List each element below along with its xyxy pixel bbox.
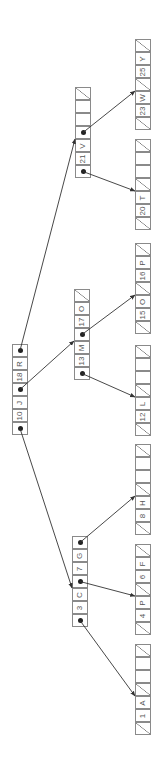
key-cell: R bbox=[12, 357, 28, 370]
null-slash-icon bbox=[136, 140, 150, 151]
key-label: O bbox=[78, 305, 86, 311]
tree-node-n_mid: 13M17O bbox=[74, 289, 90, 380]
b-tree-diagram: 10J18R3C7G13M17O21V1A4P6F8H12L15O16P20T2… bbox=[0, 0, 164, 762]
empty-cell bbox=[75, 113, 91, 126]
pointer-dot-icon bbox=[18, 348, 23, 353]
key-cell: 21 bbox=[75, 152, 91, 165]
key-cell: 7 bbox=[72, 562, 88, 575]
null-slash-icon bbox=[136, 283, 150, 294]
key-label: G bbox=[76, 552, 84, 558]
null-slash-icon bbox=[136, 322, 150, 333]
null-pointer-cell bbox=[135, 321, 151, 334]
pointer-cell bbox=[74, 328, 90, 341]
null-pointer-cell bbox=[135, 78, 151, 91]
null-slash-icon bbox=[136, 424, 150, 435]
key-label: H bbox=[139, 500, 147, 506]
null-pointer-cell bbox=[135, 583, 151, 596]
key-cell: L bbox=[135, 397, 151, 410]
key-label: T bbox=[139, 195, 147, 200]
empty-cell bbox=[135, 457, 151, 470]
key-label: 1 bbox=[139, 713, 147, 717]
key-cell: G bbox=[72, 549, 88, 562]
key-label: V bbox=[79, 143, 87, 148]
empty-cell bbox=[135, 358, 151, 371]
key-label: 3 bbox=[76, 605, 84, 609]
key-cell: Y bbox=[135, 52, 151, 65]
key-cell: H bbox=[135, 496, 151, 509]
key-label: 7 bbox=[76, 566, 84, 570]
key-label: 10 bbox=[16, 411, 24, 420]
key-label: 8 bbox=[139, 513, 147, 517]
key-cell: 13 bbox=[74, 354, 90, 367]
key-label: 25 bbox=[139, 67, 147, 76]
pointer-dot-icon bbox=[78, 618, 83, 623]
empty-cell bbox=[135, 165, 151, 178]
null-slash-icon bbox=[136, 523, 150, 534]
key-label: 20 bbox=[139, 206, 147, 215]
pointer-dot-icon bbox=[81, 130, 86, 135]
key-label: O bbox=[139, 298, 147, 304]
pointer-dot-icon bbox=[78, 579, 83, 584]
empty-cell bbox=[75, 100, 91, 113]
null-pointer-cell bbox=[135, 117, 151, 130]
key-label: J bbox=[16, 401, 24, 405]
null-slash-icon bbox=[136, 684, 150, 695]
null-slash-icon bbox=[136, 623, 150, 634]
key-label: L bbox=[139, 401, 147, 405]
null-pointer-cell bbox=[135, 544, 151, 557]
null-pointer-cell bbox=[74, 289, 90, 302]
null-slash-icon bbox=[136, 484, 150, 495]
key-label: 23 bbox=[139, 106, 147, 115]
null-pointer-cell bbox=[135, 178, 151, 191]
null-pointer-cell bbox=[135, 722, 151, 735]
null-slash-icon bbox=[136, 645, 150, 656]
null-slash-icon bbox=[136, 346, 150, 357]
tree-node-leaf7: 23W25Y bbox=[135, 39, 151, 130]
key-label: 18 bbox=[16, 372, 24, 381]
key-label: C bbox=[76, 592, 84, 598]
tree-node-leaf4: 12L bbox=[135, 345, 151, 436]
null-pointer-cell bbox=[135, 282, 151, 295]
null-pointer-cell bbox=[135, 345, 151, 358]
pointer-cell bbox=[74, 367, 90, 380]
null-slash-icon bbox=[136, 723, 150, 734]
key-cell: 3 bbox=[72, 601, 88, 614]
pointer-dot-icon bbox=[78, 540, 83, 545]
empty-cell bbox=[135, 670, 151, 683]
key-cell: 8 bbox=[135, 509, 151, 522]
key-label: 15 bbox=[139, 310, 147, 319]
key-cell: J bbox=[12, 396, 28, 409]
tree-node-leaf5: 15O16P bbox=[135, 243, 151, 334]
null-pointer-cell bbox=[135, 644, 151, 657]
key-label: P bbox=[139, 260, 147, 265]
null-slash-icon bbox=[136, 385, 150, 396]
empty-cell bbox=[135, 152, 151, 165]
tree-node-root: 10J18R bbox=[12, 344, 28, 435]
pointer-cell bbox=[72, 614, 88, 627]
key-label: Y bbox=[139, 56, 147, 61]
pointer-cell bbox=[75, 126, 91, 139]
key-cell: 18 bbox=[12, 370, 28, 383]
null-slash-icon bbox=[76, 88, 90, 99]
null-pointer-cell bbox=[135, 683, 151, 696]
key-cell: C bbox=[72, 588, 88, 601]
key-cell: V bbox=[75, 139, 91, 152]
pointer-dot-icon bbox=[80, 371, 85, 376]
empty-cell bbox=[135, 470, 151, 483]
key-cell: W bbox=[135, 91, 151, 104]
tree-node-leaf1: 1A bbox=[135, 644, 151, 735]
tree-node-leaf2: 4P6F bbox=[135, 544, 151, 635]
null-pointer-cell bbox=[135, 522, 151, 535]
key-label: A bbox=[139, 700, 147, 705]
key-cell: 16 bbox=[135, 269, 151, 282]
null-pointer-cell bbox=[135, 139, 151, 152]
child-pointer-arrow bbox=[80, 496, 135, 543]
key-label: W bbox=[139, 94, 147, 102]
null-pointer-cell bbox=[135, 243, 151, 256]
key-label: 21 bbox=[79, 154, 87, 163]
null-slash-icon bbox=[75, 290, 89, 301]
key-cell: A bbox=[135, 696, 151, 709]
null-slash-icon bbox=[136, 244, 150, 255]
null-pointer-cell bbox=[135, 423, 151, 436]
pointer-dot-icon bbox=[18, 426, 23, 431]
